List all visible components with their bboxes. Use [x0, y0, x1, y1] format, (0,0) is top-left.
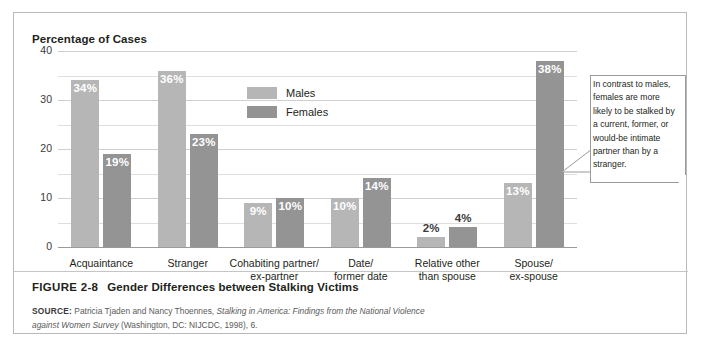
bar-value-label-females-2: 10%	[270, 200, 310, 212]
callout-text: In contrast to males, females are more l…	[593, 78, 679, 172]
y-axis-tick-30: 30	[18, 93, 52, 105]
bar-males-0	[71, 80, 99, 247]
bar-value-label-males-0: 34%	[65, 82, 105, 94]
legend-item-females: Females	[247, 106, 328, 118]
source-note: SOURCE: Patricia Tjaden and Nancy Thoenn…	[32, 305, 452, 332]
plot-area: 01020304034%19%Acquaintance36%23%Strange…	[58, 51, 577, 247]
legend-label-males: Males	[286, 87, 315, 99]
x-axis-category-label-5: Spouse/ ex-spouse	[485, 257, 584, 282]
bar-value-label-females-0: 19%	[97, 156, 137, 168]
bar-males-1	[158, 71, 186, 247]
source-text-1: Patricia Tjaden and Nancy Thoennes,	[72, 306, 216, 316]
legend-swatch-females-icon	[247, 106, 277, 118]
figure-caption: FIGURE 2-8Gender Differences between Sta…	[32, 281, 359, 293]
legend-swatch-males-icon	[247, 87, 277, 99]
bar-females-1	[190, 134, 218, 247]
gridline-5	[58, 223, 577, 224]
bar-value-label-females-5: 38%	[530, 63, 570, 75]
source-text-2: (Washington, DC: NIJCDC, 1998), 6.	[119, 320, 258, 330]
gridline-10	[58, 198, 577, 199]
y-axis-tick-10: 10	[18, 191, 52, 203]
callout-pointer-icon	[561, 147, 593, 173]
bar-value-label-males-5: 13%	[498, 185, 538, 197]
chart-legend: Males Females	[247, 87, 328, 125]
chart-region: Percentage of Cases 01020304034%19%Acqua…	[14, 13, 688, 271]
bar-females-5	[536, 61, 564, 247]
legend-item-males: Males	[247, 87, 328, 99]
x-axis-category-label-2: Cohabiting partner/ ex-partner	[225, 257, 324, 282]
y-axis-tick-20: 20	[18, 142, 52, 154]
bar-value-label-males-3: 10%	[325, 200, 365, 212]
gridline-40	[58, 51, 577, 52]
x-axis-category-label-4: Relative other than spouse	[398, 257, 497, 282]
figure-title: Gender Differences between Stalking Vict…	[107, 281, 358, 293]
bar-value-label-females-4: 4%	[443, 212, 483, 224]
y-axis-tick-0: 0	[18, 240, 52, 252]
bar-value-label-females-3: 14%	[357, 180, 397, 192]
y-axis-tick-40: 40	[18, 44, 52, 56]
caption-divider	[14, 271, 688, 272]
x-axis-category-label-0: Acquaintance	[52, 257, 151, 270]
bar-value-label-males-1: 36%	[152, 73, 192, 85]
gridline-35	[58, 76, 577, 77]
gridline-15	[58, 174, 577, 175]
x-axis-category-label-3: Date/ former date	[312, 257, 411, 282]
legend-label-females: Females	[286, 106, 328, 118]
x-axis-category-label-1: Stranger	[139, 257, 238, 270]
gridline-20	[58, 149, 577, 150]
figure-container: Percentage of Cases 01020304034%19%Acqua…	[13, 12, 687, 334]
bar-females-4	[449, 227, 477, 247]
source-label: SOURCE:	[32, 306, 72, 316]
gridline-0	[58, 247, 577, 248]
bar-males-4	[417, 237, 445, 247]
figure-number: FIGURE 2-8	[32, 281, 98, 293]
callout-annotation: In contrast to males, females are more l…	[584, 71, 688, 189]
bar-value-label-females-1: 23%	[184, 136, 224, 148]
